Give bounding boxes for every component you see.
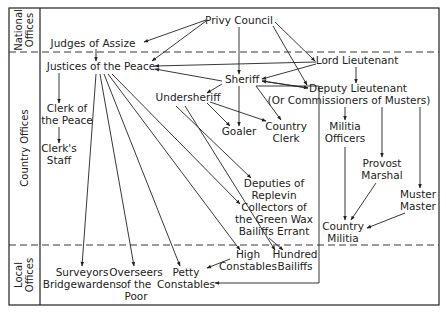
- svg-text:Militia: Militia: [329, 120, 360, 132]
- svg-text:Country Offices: Country Offices: [19, 109, 30, 186]
- svg-text:Clerk of: Clerk of: [47, 102, 88, 114]
- svg-text:Poor: Poor: [124, 290, 148, 302]
- svg-text:Surveyors: Surveyors: [56, 266, 109, 278]
- svg-text:Master: Master: [400, 200, 437, 212]
- svg-text:Offices: Offices: [24, 13, 35, 47]
- svg-text:National: National: [13, 9, 24, 51]
- svg-text:Local: Local: [13, 262, 24, 288]
- node-petty-constables: Petty Constables: [157, 266, 215, 290]
- svg-text:Overseers: Overseers: [109, 266, 162, 278]
- svg-text:the Green Wax: the Green Wax: [235, 213, 313, 225]
- svg-text:Petty: Petty: [173, 266, 200, 278]
- node-judges-of-assize: Judges of Assize: [50, 37, 136, 49]
- section-label-national: National Offices: [13, 9, 35, 51]
- svg-text:the Peace: the Peace: [41, 114, 93, 126]
- node-deputy-lieutenant: Deputy Lieutenant: [309, 82, 407, 94]
- svg-text:Country: Country: [265, 120, 307, 132]
- svg-text:Bailiffs: Bailiffs: [277, 260, 312, 272]
- node-privy-council: Privy Council: [205, 14, 273, 26]
- svg-text:Constables: Constables: [219, 260, 277, 272]
- svg-text:Muster: Muster: [400, 188, 437, 200]
- svg-text:of the: of the: [121, 278, 152, 290]
- svg-text:Officers: Officers: [325, 132, 365, 144]
- svg-text:Deputies of: Deputies of: [244, 177, 305, 189]
- svg-text:Offices: Offices: [24, 258, 35, 292]
- svg-text:Replevin: Replevin: [251, 189, 296, 201]
- node-lord-lieutenant: Lord Lieutenant: [316, 54, 399, 66]
- svg-text:Militia: Militia: [327, 232, 358, 244]
- node-country-militia: Country Militia: [322, 220, 364, 244]
- node-deputy-lieutenant-note: (Or Commissioners of Musters): [268, 94, 431, 106]
- node-muster-master: Muster Master: [400, 188, 437, 212]
- node-clerk-of-the-peace: Clerk of the Peace: [41, 102, 93, 126]
- node-justices-of-the-peace: Justices of the Peace: [46, 60, 155, 72]
- node-sheriff: Sheriff: [225, 73, 260, 85]
- node-deputies-of-replevin: Deputies of Replevin: [244, 177, 305, 201]
- svg-text:Clerk's: Clerk's: [41, 142, 76, 154]
- node-bailiffs-errant: Bailiffs Errant: [239, 225, 310, 237]
- node-country-clerk: Country Clerk: [265, 120, 307, 144]
- svg-text:Staff: Staff: [47, 154, 72, 166]
- node-provost-marshal: Provost Marshal: [361, 157, 402, 181]
- svg-text:Country: Country: [322, 220, 364, 232]
- node-undersheriff: Undersheriff: [156, 91, 222, 103]
- svg-text:Provost: Provost: [363, 157, 402, 169]
- svg-text:Hundred: Hundred: [272, 248, 317, 260]
- svg-text:Clerk: Clerk: [272, 132, 300, 144]
- svg-text:Marshal: Marshal: [361, 169, 402, 181]
- hierarchy-diagram: National Offices Country Offices Local O…: [0, 0, 446, 313]
- node-hundred-bailiffs: Hundred Bailiffs: [272, 248, 317, 272]
- section-label-country: Country Offices: [19, 109, 30, 186]
- section-label-local: Local Offices: [13, 258, 35, 292]
- svg-text:Constables: Constables: [157, 278, 215, 290]
- node-clerks-staff: Clerk's Staff: [41, 142, 76, 166]
- node-goaler: Goaler: [222, 125, 257, 137]
- node-militia-officers: Militia Officers: [325, 120, 365, 144]
- svg-text:Bridgewardens: Bridgewardens: [43, 278, 122, 290]
